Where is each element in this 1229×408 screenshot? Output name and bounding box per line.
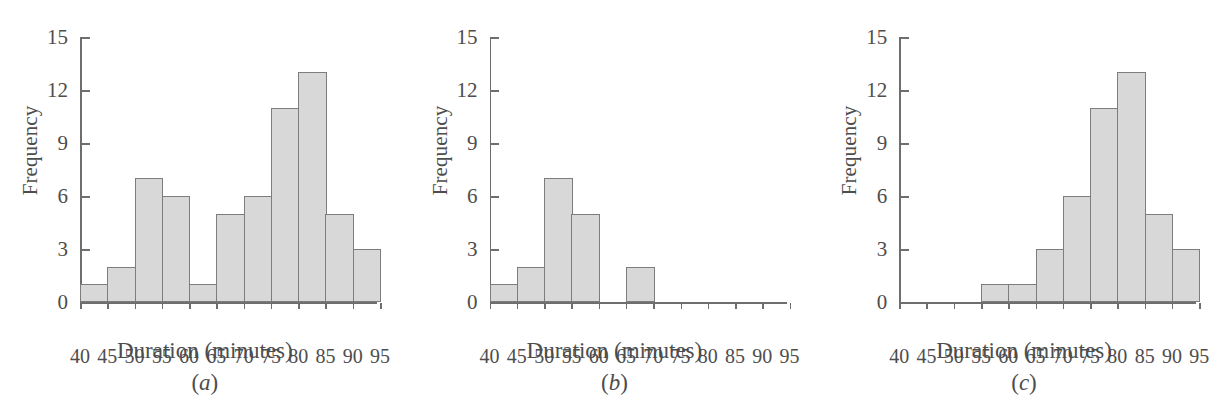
x-axis-tick — [1036, 303, 1038, 309]
y-axis-tick — [491, 37, 499, 39]
x-axis-tick — [599, 303, 601, 309]
x-axis-tick — [544, 303, 546, 309]
histogram-bar — [490, 284, 519, 302]
histogram-bar — [216, 214, 245, 302]
x-axis-tick — [926, 303, 928, 309]
caption-paren-open: ( — [1011, 370, 1019, 395]
x-axis-tick — [1199, 303, 1201, 309]
histogram-bar — [325, 214, 354, 302]
x-axis-tick — [571, 303, 573, 309]
histogram-bar — [353, 249, 382, 302]
histogram-bar — [1008, 284, 1037, 302]
histogram-bar — [1117, 72, 1146, 302]
histogram-bar — [517, 267, 546, 302]
x-axis-tick — [490, 303, 492, 309]
y-axis-tick-label: 15 — [47, 25, 68, 50]
x-axis-tick — [681, 303, 683, 309]
y-axis-tick — [82, 37, 90, 39]
histogram-bar — [162, 196, 191, 302]
x-axis-tick — [954, 303, 956, 309]
y-axis-tick — [491, 249, 499, 251]
x-axis-tick — [244, 303, 246, 309]
x-axis-tick — [653, 303, 655, 309]
y-axis-tick-label: 15 — [457, 25, 478, 50]
y-axis-tick — [82, 249, 90, 251]
y-axis-tick-label: 0 — [877, 290, 888, 315]
x-axis-line — [899, 302, 1196, 304]
y-axis-tick-label: 6 — [58, 184, 69, 209]
y-axis-tick-label: 9 — [467, 131, 478, 156]
histogram-panel-b: Frequency0369121540455055606570758085909… — [410, 0, 820, 408]
x-axis-tick — [1008, 303, 1010, 309]
x-axis-tick — [298, 303, 300, 309]
x-axis-tick — [1145, 303, 1147, 309]
y-axis-tick-label: 3 — [877, 237, 888, 262]
plot-area: 03691215404550556065707580859095 — [490, 37, 790, 302]
y-axis-tick — [901, 37, 909, 39]
caption-letter: c — [1019, 370, 1029, 395]
y-axis-tick-label: 12 — [47, 78, 68, 103]
y-axis-tick-label: 3 — [467, 237, 478, 262]
histogram-bar — [571, 214, 600, 302]
x-axis-tick — [517, 303, 519, 309]
histogram-bar — [298, 72, 327, 302]
y-axis-tick-label: 6 — [467, 184, 478, 209]
y-axis-tick — [491, 143, 499, 145]
y-axis-tick — [901, 196, 909, 198]
x-axis-tick — [380, 303, 382, 309]
y-axis-tick — [491, 90, 499, 92]
histogram-bar — [107, 267, 136, 302]
y-axis-tick-label: 6 — [877, 184, 888, 209]
y-axis-tick — [901, 143, 909, 145]
y-axis-label: Frequency — [833, 0, 867, 300]
x-axis-line — [80, 302, 377, 304]
x-axis-tick — [762, 303, 764, 309]
plot-area: 03691215404550556065707580859095 — [80, 37, 380, 302]
y-axis-tick — [901, 90, 909, 92]
x-axis-tick — [981, 303, 983, 309]
x-axis-tick — [735, 303, 737, 309]
caption-paren-close: ) — [620, 370, 628, 395]
histogram-bar — [189, 284, 218, 302]
x-axis-tick — [899, 303, 901, 309]
y-axis-tick — [82, 90, 90, 92]
x-axis-label: Duration (minutes) — [819, 338, 1229, 364]
x-axis-label: Duration (minutes) — [0, 338, 410, 364]
histogram-panel-a: Frequency0369121540455055606570758085909… — [0, 0, 410, 408]
x-axis-tick — [271, 303, 273, 309]
y-axis-label-text: Frequency — [838, 105, 863, 195]
x-axis-tick — [325, 303, 327, 309]
y-axis-tick-label: 0 — [467, 290, 478, 315]
x-axis-tick — [189, 303, 191, 309]
panel-caption: (b) — [410, 370, 820, 396]
histogram-bar — [1172, 249, 1201, 302]
y-axis-tick — [82, 143, 90, 145]
x-axis-tick — [1063, 303, 1065, 309]
y-axis-label-text: Frequency — [19, 105, 44, 195]
caption-letter: a — [199, 370, 211, 395]
y-axis-line — [80, 37, 82, 302]
plot-area: 03691215404550556065707580859095 — [899, 37, 1199, 302]
histogram-bar — [135, 178, 164, 302]
histogram-bar — [1145, 214, 1174, 302]
y-axis-tick — [82, 196, 90, 198]
caption-paren-open: ( — [191, 370, 199, 395]
histogram-bar — [1036, 249, 1065, 302]
histogram-bar — [981, 284, 1010, 302]
y-axis-tick-label: 12 — [457, 78, 478, 103]
y-axis-line — [490, 37, 492, 302]
histogram-panel-c: Frequency0369121540455055606570758085909… — [819, 0, 1229, 408]
y-axis-tick-label: 9 — [877, 131, 888, 156]
y-axis-line — [899, 37, 901, 302]
x-axis-tick — [1172, 303, 1174, 309]
y-axis-tick — [491, 302, 499, 304]
caption-paren-close: ) — [211, 370, 219, 395]
histogram-bar — [244, 196, 273, 302]
panel-caption: (c) — [819, 370, 1229, 396]
y-axis-tick-label: 0 — [58, 290, 69, 315]
y-axis-tick — [491, 196, 499, 198]
y-axis-tick-label: 9 — [58, 131, 69, 156]
caption-paren-close: ) — [1029, 370, 1037, 395]
y-axis-tick — [901, 249, 909, 251]
histogram-bar — [1090, 108, 1119, 302]
